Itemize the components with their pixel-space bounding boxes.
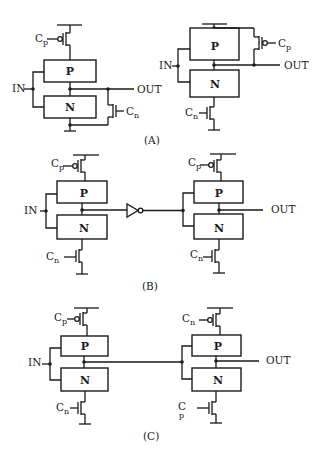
circuit-figure: Cp P N IN OUT Cn xyxy=(0,0,322,454)
pull-up-label: P xyxy=(215,187,223,200)
panel-a-right-circuit: P N IN OUT Cp xyxy=(159,24,308,130)
clock-p-label-bottom: Cp xyxy=(178,400,186,420)
clock-n-label: Cn xyxy=(56,401,69,416)
clock-nmos-transistor xyxy=(197,391,216,423)
clock-pmos-transistor xyxy=(67,308,87,336)
pull-down-label: N xyxy=(214,222,224,235)
clock-n-label-top: Cn xyxy=(182,312,195,327)
clock-nmos-transistor xyxy=(108,89,124,125)
input-label: IN xyxy=(24,204,37,216)
clock-pmos-transistor xyxy=(63,155,85,181)
clock-nmos-transistor xyxy=(203,239,219,273)
clock-pmos-transistor xyxy=(200,154,221,181)
output-label: OUT xyxy=(266,354,290,366)
pull-down-label: N xyxy=(210,78,220,91)
clock-n-label: Cn xyxy=(46,250,59,265)
panel-a-caption: (A) xyxy=(144,134,160,146)
panel-c-caption: (C) xyxy=(143,430,159,442)
pull-up-label: P xyxy=(80,187,88,200)
clock-p-label: Cp xyxy=(188,156,201,171)
output-label: OUT xyxy=(284,59,308,71)
input-label: IN xyxy=(28,356,41,368)
output-label: OUT xyxy=(271,203,295,215)
pull-up-label: P xyxy=(211,40,219,53)
clock-nmos-transistor xyxy=(199,97,214,130)
pull-up-label: P xyxy=(66,65,74,78)
clock-p-label: Cp xyxy=(54,311,67,326)
clock-n-label: Cn xyxy=(185,106,198,121)
inverter-gate xyxy=(127,204,185,217)
panel-a-left-circuit: Cp P N IN OUT Cn xyxy=(12,25,161,131)
clock-p-label: Cp xyxy=(278,37,291,52)
pull-down-label: N xyxy=(213,374,223,387)
clock-nmos-transistor xyxy=(64,239,82,274)
clock-n-label: Cn xyxy=(126,105,139,120)
clock-n-label: Cn xyxy=(190,248,203,263)
clock-pmos-transistor xyxy=(199,308,220,335)
panel-b-right-circuit: Cp P N OUT Cn xyxy=(183,154,295,273)
input-label: IN xyxy=(12,82,25,94)
pull-up-label: P xyxy=(214,340,222,353)
panel-b-caption: (B) xyxy=(142,280,158,292)
clock-p-label: Cp xyxy=(51,157,64,172)
pull-down-label: N xyxy=(79,222,89,235)
pull-up-label: P xyxy=(81,340,89,353)
panel-c-right-circuit: Cn P N OUT Cp xyxy=(178,308,290,423)
clock-pmos-transistor xyxy=(47,25,70,60)
panel-c-left-circuit: Cp P N IN Cn xyxy=(28,308,182,424)
clock-p-label: Cp xyxy=(35,32,48,47)
pull-down-label: N xyxy=(65,101,75,114)
pull-down-label: N xyxy=(80,374,90,387)
clock-nmos-transistor xyxy=(70,391,85,424)
output-label: OUT xyxy=(137,83,161,95)
input-label: IN xyxy=(159,59,172,71)
panel-b-left-circuit: Cp P N IN Cn xyxy=(24,155,127,274)
